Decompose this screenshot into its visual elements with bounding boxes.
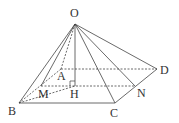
- label-N: N: [137, 86, 146, 100]
- label-B: B: [8, 104, 16, 118]
- right-angle-icon: [70, 81, 75, 86]
- label-H: H: [70, 87, 79, 101]
- edge-CD: [115, 69, 157, 103]
- pyramid-diagram: OABCDMHN: [0, 0, 179, 123]
- label-O: O: [70, 6, 79, 20]
- edge-ON: [75, 24, 135, 86]
- label-C: C: [110, 106, 118, 120]
- pyramid-figure: OABCDMHN: [0, 0, 179, 123]
- label-D: D: [160, 63, 169, 77]
- label-A: A: [57, 69, 66, 83]
- right-angle-mark: [70, 81, 75, 86]
- edge-OC: [75, 24, 115, 103]
- edge-OD: [75, 24, 157, 69]
- label-M: M: [38, 87, 49, 101]
